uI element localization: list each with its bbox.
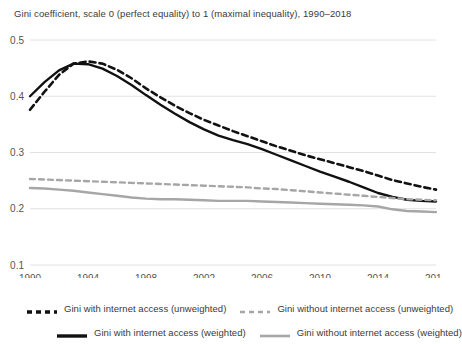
x-tick-label: 1998	[135, 273, 158, 278]
y-tick-label: 0.5	[10, 35, 24, 46]
legend-label-1: Gini without internet access (unweighted…	[277, 303, 453, 314]
legend-item-2[interactable]: Gini with internet access (weighted)	[57, 327, 246, 338]
x-tick-label: 2002	[193, 273, 216, 278]
legend-label-2: Gini with internet access (weighted)	[94, 327, 246, 338]
y-axis-tick-labels: 0.10.20.30.40.5	[10, 35, 24, 271]
x-tick-label: 1994	[77, 273, 100, 278]
legend-swatch-solid-gray	[260, 327, 290, 337]
x-tick-label: 2006	[251, 273, 274, 278]
series-line-2	[30, 179, 436, 200]
legend-label-3: Gini without internet access (weighted)	[297, 327, 462, 338]
legend-swatch-solid-dark	[57, 327, 87, 337]
plot-area: 0.10.20.30.40.5 199019941998200220062010…	[0, 26, 442, 278]
x-tick-label: 2018	[425, 273, 442, 278]
legend-row-unweighted: Gini with internet access (unweighted) G…	[0, 296, 442, 320]
y-tick-label: 0.4	[10, 91, 24, 102]
x-axis-tick-labels: 19901994199820022006201020142018	[19, 273, 442, 278]
legend-swatch-dashed-gray	[240, 303, 270, 313]
data-series-group	[30, 61, 436, 212]
series-line-1	[30, 64, 436, 202]
chart-title: Gini coefficient, scale 0 (perfect equal…	[14, 8, 351, 19]
y-tick-label: 0.2	[10, 203, 24, 214]
legend-row-weighted: Gini with internet access (weighted) Gin…	[0, 320, 442, 344]
series-line-0	[30, 61, 436, 189]
x-tick-label: 2010	[309, 273, 332, 278]
legend-item-0[interactable]: Gini with internet access (unweighted)	[27, 303, 226, 314]
line-chart-svg: 0.10.20.30.40.5 199019941998200220062010…	[0, 26, 442, 278]
legend-item-3[interactable]: Gini without internet access (weighted)	[260, 327, 462, 338]
legend-swatch-dashed-dark	[27, 303, 57, 313]
gridlines	[30, 40, 436, 265]
legend-label-0: Gini with internet access (unweighted)	[64, 303, 226, 314]
chart-legend: Gini with internet access (unweighted) G…	[0, 296, 442, 344]
y-tick-label: 0.3	[10, 147, 24, 158]
x-tick-label: 2014	[367, 273, 390, 278]
y-tick-label: 0.1	[10, 260, 24, 271]
x-tick-label: 1990	[19, 273, 42, 278]
legend-item-1[interactable]: Gini without internet access (unweighted…	[240, 303, 453, 314]
